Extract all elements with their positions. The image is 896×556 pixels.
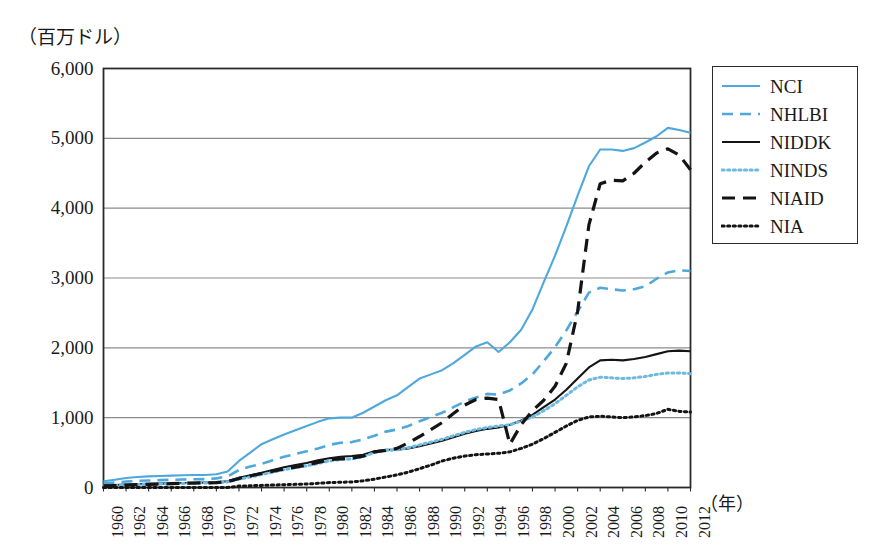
x-tick-label: 2004 bbox=[606, 506, 622, 538]
legend-item-niaid[interactable]: NIAID bbox=[721, 185, 824, 211]
legend-item-nci[interactable]: NCI bbox=[721, 73, 803, 99]
x-tick-label: 1966 bbox=[177, 506, 193, 538]
y-tick-label: 2,000 bbox=[20, 338, 94, 357]
chart-legend: NCINHLBINIDDKNINDSNIAIDNIA bbox=[712, 66, 858, 244]
x-tick-label: 2008 bbox=[651, 506, 667, 538]
x-tick-label: 2000 bbox=[561, 506, 577, 538]
legend-swatch-nci-icon bbox=[721, 79, 761, 93]
x-tick-label: 1984 bbox=[380, 506, 396, 538]
x-tick-label: 1992 bbox=[471, 506, 487, 538]
legend-item-nhlbi[interactable]: NHLBI bbox=[721, 101, 828, 127]
series-line-nci bbox=[104, 128, 691, 481]
legend-swatch-nia-icon bbox=[721, 219, 761, 233]
x-tick-label: 2012 bbox=[697, 506, 713, 538]
legend-swatch-niddk-icon bbox=[721, 135, 761, 149]
x-tick-label: 1964 bbox=[155, 506, 171, 538]
legend-label: NINDS bbox=[770, 161, 828, 180]
x-tick-label: 1980 bbox=[335, 506, 351, 538]
x-tick-label: 1978 bbox=[313, 506, 329, 538]
x-tick-label: 1990 bbox=[448, 506, 464, 538]
x-tick-label: 1972 bbox=[245, 506, 261, 538]
y-tick-label: 1,000 bbox=[20, 408, 94, 427]
x-tick-label: 1968 bbox=[200, 506, 216, 538]
y-tick-label: 4,000 bbox=[20, 198, 94, 217]
series-lines bbox=[104, 128, 691, 488]
series-line-ninds bbox=[104, 373, 691, 486]
y-tick-label: 5,000 bbox=[20, 128, 94, 147]
legend-label: NIAID bbox=[770, 189, 824, 208]
legend-label: NHLBI bbox=[770, 105, 828, 124]
legend-item-niddk[interactable]: NIDDK bbox=[721, 129, 831, 155]
x-tick-label: 1996 bbox=[516, 506, 532, 538]
x-tick-label: 1986 bbox=[403, 506, 419, 538]
legend-item-ninds[interactable]: NINDS bbox=[721, 157, 828, 183]
x-tick-label: 1976 bbox=[290, 506, 306, 538]
legend-label: NCI bbox=[770, 77, 803, 96]
gridlines bbox=[104, 138, 691, 417]
x-tick-label: 1994 bbox=[493, 506, 509, 538]
legend-label: NIDDK bbox=[770, 133, 831, 152]
x-tick-label: 1970 bbox=[222, 506, 238, 538]
legend-label: NIA bbox=[770, 217, 804, 236]
x-tick-label: 1974 bbox=[268, 506, 284, 538]
series-line-niaid bbox=[104, 149, 691, 486]
chart-figure: （百万ドル） （年） 01,0002,0003,0004,0005,0006,0… bbox=[0, 0, 896, 556]
x-tick-label: 1998 bbox=[538, 506, 554, 538]
y-tick-label: 6,000 bbox=[20, 59, 94, 78]
x-tick-label: 1960 bbox=[110, 506, 126, 538]
y-tick-label: 0 bbox=[20, 478, 94, 497]
legend-swatch-niaid-icon bbox=[721, 191, 761, 205]
x-tick-label: 1962 bbox=[132, 506, 148, 538]
x-tick-label: 1988 bbox=[426, 506, 442, 538]
legend-item-nia[interactable]: NIA bbox=[721, 213, 804, 239]
legend-swatch-ninds-icon bbox=[721, 163, 761, 177]
x-tick-label: 2006 bbox=[629, 506, 645, 538]
x-tick-label: 2010 bbox=[674, 506, 690, 538]
x-tick-label: 2002 bbox=[584, 506, 600, 538]
legend-swatch-nhlbi-icon bbox=[721, 107, 761, 121]
y-tick-label: 3,000 bbox=[20, 268, 94, 287]
x-tick-label: 1982 bbox=[358, 506, 374, 538]
